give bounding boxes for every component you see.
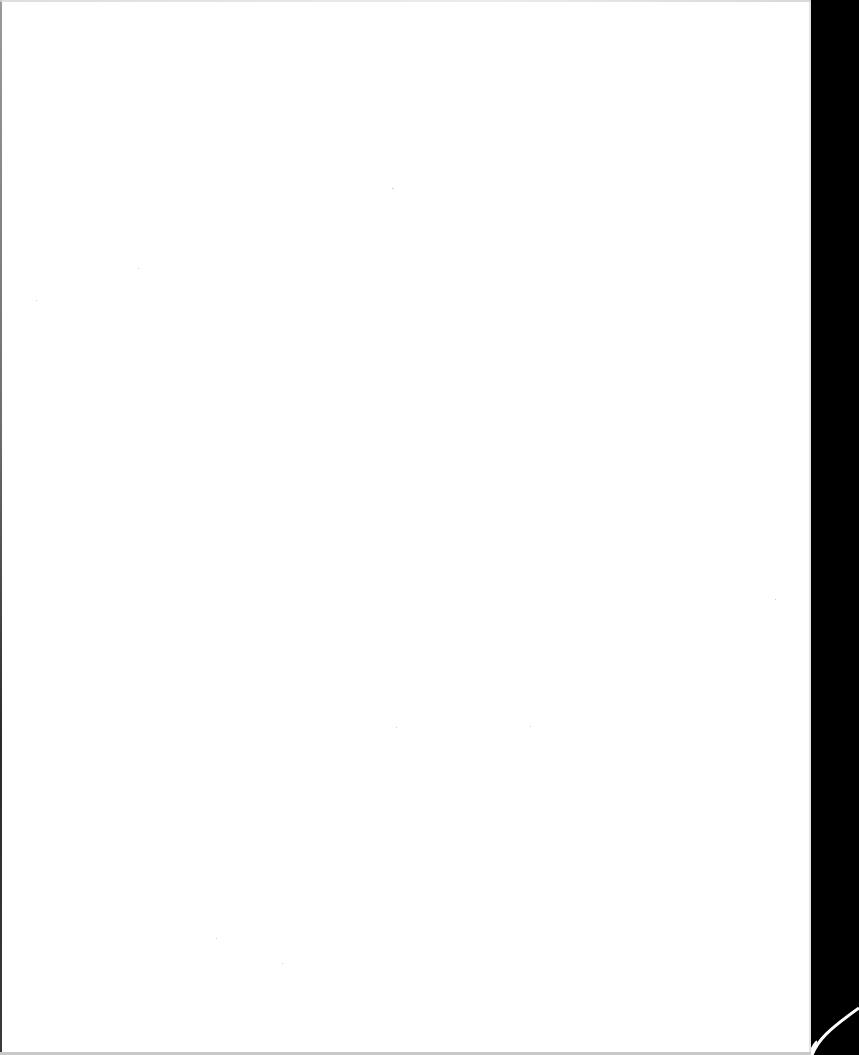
scan-speck	[530, 726, 531, 727]
scanner-bed-strip	[811, 0, 859, 1055]
scanned-document	[0, 0, 859, 1055]
scan-speck	[775, 599, 776, 600]
blank-page	[0, 0, 811, 1055]
page-left-edge-shadow	[0, 0, 2, 1055]
scan-speck	[36, 300, 37, 301]
scan-speck	[393, 188, 394, 189]
scan-speck	[138, 268, 139, 269]
scan-speck	[282, 963, 283, 964]
page-top-edge	[0, 0, 811, 2]
scan-speck	[216, 938, 217, 939]
scan-speck	[396, 727, 397, 728]
